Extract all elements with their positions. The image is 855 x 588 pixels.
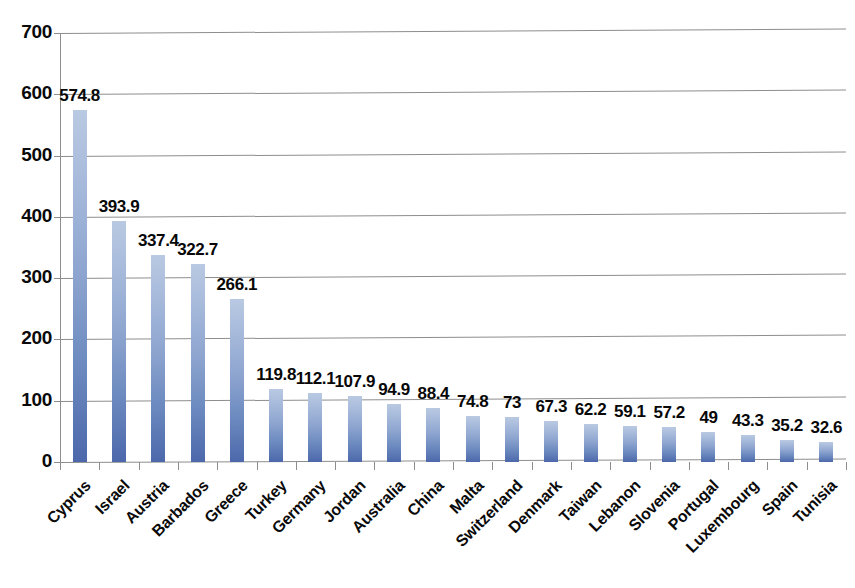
y-axis-tick-label: 0 bbox=[0, 450, 52, 472]
bar bbox=[466, 416, 480, 462]
x-axis-tick bbox=[296, 462, 297, 470]
x-axis-tick bbox=[453, 462, 454, 470]
bar bbox=[544, 421, 558, 462]
x-axis-tick bbox=[689, 462, 690, 470]
y-axis-tick bbox=[54, 156, 61, 157]
gridline bbox=[60, 151, 846, 157]
x-axis-tick bbox=[178, 462, 179, 470]
bar-value-label: 32.6 bbox=[798, 418, 854, 438]
y-axis-tick-label: 500 bbox=[0, 144, 52, 166]
x-axis-tick bbox=[217, 462, 218, 470]
y-axis-tick-label: 200 bbox=[0, 327, 52, 349]
y-axis-tick-label: 100 bbox=[0, 389, 52, 411]
x-axis-tick bbox=[492, 462, 493, 470]
bar-value-label: 393.9 bbox=[91, 197, 147, 217]
bar bbox=[230, 299, 244, 462]
x-axis-tick bbox=[767, 462, 768, 470]
gridline bbox=[60, 212, 846, 218]
y-axis-tick bbox=[54, 278, 61, 279]
gridline bbox=[60, 28, 846, 34]
y-axis-tick bbox=[54, 401, 61, 402]
y-axis-tick bbox=[54, 217, 61, 218]
bar bbox=[387, 404, 401, 462]
bar bbox=[151, 255, 165, 462]
x-axis-tick bbox=[532, 462, 533, 470]
bar bbox=[623, 426, 637, 462]
bar bbox=[505, 417, 519, 462]
x-axis-tick bbox=[139, 462, 140, 470]
x-axis-tick bbox=[257, 462, 258, 470]
y-axis-tick bbox=[54, 33, 61, 34]
x-axis-tick bbox=[414, 462, 415, 470]
y-axis-tick-label: 700 bbox=[0, 21, 52, 43]
x-axis-tick bbox=[374, 462, 375, 470]
bar bbox=[780, 440, 794, 462]
bar bbox=[741, 435, 755, 462]
bar bbox=[584, 424, 598, 462]
bar-chart: 0100200300400500600700574.8Cyprus393.9Is… bbox=[0, 0, 855, 588]
x-axis-tick bbox=[60, 462, 61, 470]
x-axis-tick bbox=[99, 462, 100, 470]
bar bbox=[73, 110, 87, 462]
bar bbox=[701, 432, 715, 462]
y-axis-tick bbox=[54, 339, 61, 340]
x-axis-tick bbox=[650, 462, 651, 470]
x-axis-tick bbox=[335, 462, 336, 470]
y-axis-tick-label: 400 bbox=[0, 205, 52, 227]
bar bbox=[819, 442, 833, 462]
x-axis-tick bbox=[571, 462, 572, 470]
x-axis-tick bbox=[728, 462, 729, 470]
bar bbox=[308, 393, 322, 462]
gridline bbox=[60, 274, 846, 280]
bar-value-label: 266.1 bbox=[209, 275, 265, 295]
bar bbox=[191, 264, 205, 462]
gridline bbox=[60, 335, 846, 341]
gridline bbox=[60, 90, 846, 96]
x-axis-tick bbox=[846, 462, 847, 470]
y-axis-tick-label: 300 bbox=[0, 266, 52, 288]
y-axis-tick-label: 600 bbox=[0, 82, 52, 104]
bar bbox=[426, 408, 440, 462]
bar-value-label: 574.8 bbox=[52, 86, 108, 106]
bar-value-label: 322.7 bbox=[170, 240, 226, 260]
bar bbox=[269, 389, 283, 462]
bar bbox=[112, 221, 126, 462]
x-axis-tick bbox=[807, 462, 808, 470]
bar bbox=[662, 427, 676, 462]
bar bbox=[348, 396, 362, 462]
x-axis-tick bbox=[610, 462, 611, 470]
